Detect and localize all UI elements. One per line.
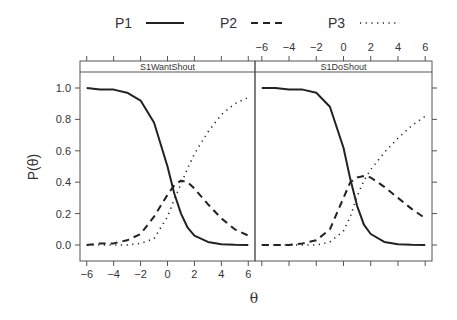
y-tick-label: 0.8 [56, 113, 71, 125]
x-tick-label-top: −2 [310, 41, 323, 53]
legend: P1P2P3 [115, 15, 400, 31]
x-tick-label-top: 6 [422, 41, 428, 53]
x-tick-label: 0 [164, 268, 170, 280]
y-tick-label: 1.0 [56, 82, 71, 94]
x-tick-label: −6 [80, 268, 93, 280]
x-tick-label-top: 0 [340, 41, 346, 53]
x-tick-label: 4 [218, 268, 224, 280]
x-tick-label: 2 [191, 268, 197, 280]
strip-label: S1DoShout [320, 62, 367, 72]
left-axis: 0.00.20.40.60.81.0 [56, 82, 437, 251]
y-tick-label: 0.6 [56, 145, 71, 157]
y-axis-label: P(θ) [25, 154, 41, 180]
series-p3 [262, 116, 425, 245]
series-p1 [262, 88, 425, 245]
y-tick-label: 0.2 [56, 208, 71, 220]
top-axis: −6−4−20246 [87, 41, 429, 61]
x-tick-label-top: 4 [395, 41, 401, 53]
panel-S1DoShout: S1DoShout [255, 61, 432, 261]
panels: S1WantShoutS1DoShout [80, 61, 432, 261]
legend-label-p1: P1 [115, 15, 132, 31]
x-axis-label: θ [250, 290, 258, 306]
series-p3 [87, 97, 249, 245]
x-tick-label: −2 [134, 268, 147, 280]
y-tick-label: 0.0 [56, 239, 71, 251]
x-tick-label: −4 [107, 268, 120, 280]
chart: P1P2P3 −6−4−20246 S1WantShoutS1DoShout 0… [0, 0, 457, 320]
y-tick-label: 0.4 [56, 176, 71, 188]
panel-frame [80, 61, 255, 261]
series-p2 [87, 181, 249, 245]
panel-S1WantShout: S1WantShout [80, 61, 255, 261]
x-tick-label-top: −6 [256, 41, 269, 53]
x-tick-label-top: −4 [283, 41, 296, 53]
legend-label-p3: P3 [328, 15, 345, 31]
x-tick-label: 6 [245, 268, 251, 280]
legend-label-p2: P2 [220, 15, 237, 31]
bottom-axis: −6−4−20246 [80, 261, 425, 280]
series-p2 [262, 176, 425, 245]
x-tick-label-top: 2 [368, 41, 374, 53]
strip-label: S1WantShout [140, 62, 196, 72]
